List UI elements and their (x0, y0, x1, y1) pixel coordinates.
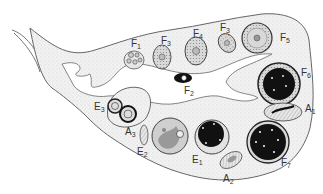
label-f2: F2 (184, 86, 194, 97)
follicle-f2 (174, 73, 192, 83)
follicle-f3-left (153, 45, 171, 69)
label-f3b: F3 (220, 23, 230, 34)
corpus-e2 (152, 118, 188, 154)
label-e1: E1 (192, 155, 203, 166)
label-a1: A1 (305, 104, 316, 115)
label-f3a: F3 (161, 36, 171, 47)
ovary-diagram (0, 0, 323, 194)
label-a2: A2 (223, 174, 234, 185)
follicle-e1 (195, 120, 229, 154)
atretic-follicle-a3 (140, 125, 148, 145)
follicle-f5 (242, 23, 272, 53)
label-f7: F7 (281, 158, 291, 169)
follicle-f1 (124, 51, 144, 69)
label-e3: E3 (94, 102, 105, 113)
label-f1: F1 (131, 39, 141, 50)
label-f5: F5 (280, 33, 290, 44)
atretic-follicle-a1 (264, 103, 302, 121)
label-a3: A3 (125, 127, 136, 138)
label-f6: F6 (301, 68, 311, 79)
label-f4: F4 (193, 29, 203, 40)
follicle-f6 (258, 63, 300, 105)
follicle-f4 (185, 37, 207, 65)
label-e2: E2 (137, 147, 148, 158)
